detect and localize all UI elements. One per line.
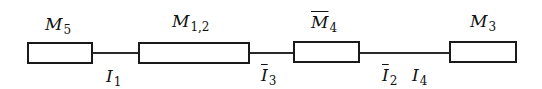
connector-m4-m3 xyxy=(359,52,449,54)
module-chain-diagram: M5 M1,2 M4 M3 I1 I3 I2 I4 xyxy=(0,0,542,89)
interface-label-i1: I1 xyxy=(106,68,121,85)
module-label-m3: M3 xyxy=(470,13,496,30)
module-box-m4bar xyxy=(293,41,360,63)
interface-label-i4: I4 xyxy=(412,67,427,84)
module-box-m5 xyxy=(27,42,93,64)
module-box-m3 xyxy=(449,41,517,63)
interface-label-i2bar: I2 xyxy=(382,67,397,84)
module-box-m12 xyxy=(138,42,250,64)
module-label-m12: M1,2 xyxy=(172,13,210,30)
connector-m12-m4 xyxy=(249,52,293,54)
interface-label-i3bar: I3 xyxy=(261,67,276,84)
connector-m5-m12 xyxy=(92,52,138,54)
module-label-m5: M5 xyxy=(45,16,71,33)
module-label-m4bar: M4 xyxy=(311,14,337,31)
